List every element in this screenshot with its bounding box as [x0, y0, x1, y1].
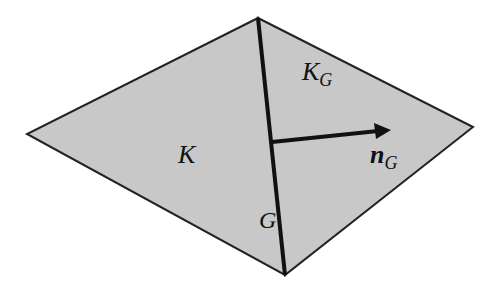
label-edge-g: G: [259, 207, 276, 233]
element-kg: [258, 18, 473, 275]
label-k: K: [177, 140, 197, 169]
mesh-diagram: K KG nG G: [0, 0, 489, 286]
element-k: [27, 18, 285, 275]
